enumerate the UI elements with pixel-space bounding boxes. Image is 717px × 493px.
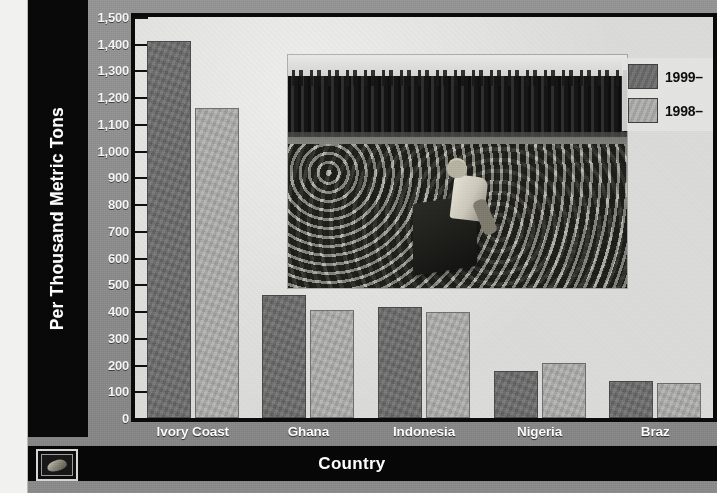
plot-area: 1999– 1998– xyxy=(131,13,717,422)
x-tick-label: Braz xyxy=(641,424,670,439)
y-axis-title-text: Per Thousand Metric Tons xyxy=(47,107,68,330)
photo-treeline xyxy=(288,76,627,137)
legend-item-1998: 1998– xyxy=(628,98,713,123)
legend-swatch-1999 xyxy=(628,64,658,89)
legend-swatch-1998 xyxy=(628,98,658,123)
x-tick-label: Nigeria xyxy=(517,424,562,439)
bar-braz-1998 xyxy=(657,383,701,418)
badge-frame xyxy=(41,454,73,476)
bar-ghana-1998 xyxy=(310,310,354,418)
legend-item-1999: 1999– xyxy=(628,64,713,89)
y-tick-label: 400 xyxy=(108,304,129,319)
cocoa-pod-glyph xyxy=(46,458,68,473)
y-tick-label: 100 xyxy=(108,384,129,399)
cocoa-pod-badge-icon xyxy=(36,449,78,481)
x-axis-title-text: Country xyxy=(318,454,385,474)
footer-strip xyxy=(27,481,717,493)
bar-nigeria-1999 xyxy=(494,371,538,418)
legend: 1999– 1998– xyxy=(622,58,713,131)
y-tick-label: 1,100 xyxy=(97,116,129,131)
y-tick-label: 300 xyxy=(108,330,129,345)
bar-indonesia-1999 xyxy=(378,307,422,418)
y-tick-label: 1,400 xyxy=(97,36,129,51)
bar-ghana-1999 xyxy=(262,295,306,418)
bar-ivory-coast-1999 xyxy=(147,41,191,418)
x-axis-band: Country xyxy=(27,446,717,481)
y-axis-title: Per Thousand Metric Tons xyxy=(27,0,88,437)
legend-label-1998: 1998– xyxy=(665,103,703,119)
y-tick-label: 200 xyxy=(108,357,129,372)
y-tick-label: 1,500 xyxy=(97,10,129,25)
x-tick-labels: Ivory CoastGhanaIndonesiaNigeriaBraz xyxy=(131,423,717,446)
y-tick-label: 1,300 xyxy=(97,63,129,78)
y-tick-label: 1,200 xyxy=(97,90,129,105)
y-tick-label: 700 xyxy=(108,223,129,238)
y-tick-label: 900 xyxy=(108,170,129,185)
bar-ivory-coast-1998 xyxy=(195,108,239,418)
bar-braz-1999 xyxy=(609,381,653,418)
y-tick-label: 500 xyxy=(108,277,129,292)
y-tick-label: 600 xyxy=(108,250,129,265)
credit-strip xyxy=(0,0,28,493)
y-tick-labels: 01002003004005006007008009001,0001,1001,… xyxy=(88,0,132,437)
legend-label-1999: 1999– xyxy=(665,69,703,85)
x-tick-label: Ivory Coast xyxy=(157,424,229,439)
bar-indonesia-1998 xyxy=(426,312,470,418)
cocoa-farm-photo xyxy=(288,55,627,288)
y-tick-label: 800 xyxy=(108,197,129,212)
x-tick-label: Ghana xyxy=(288,424,330,439)
bar-nigeria-1998 xyxy=(542,363,586,418)
x-tick-label: Indonesia xyxy=(393,424,455,439)
photo-farmer-head xyxy=(447,160,467,178)
y-tick-label: 1,000 xyxy=(97,143,129,158)
chart-screenshot: Per Thousand Metric Tons 010020030040050… xyxy=(0,0,717,493)
y-tick-label: 0 xyxy=(122,411,129,426)
